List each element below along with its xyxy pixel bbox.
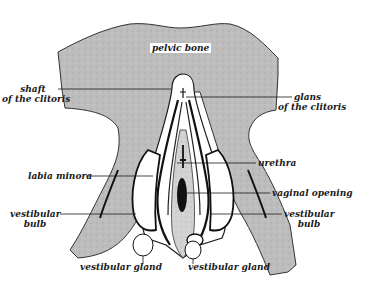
label-shaft-of-clitoris: shaft of the clitoris <box>2 84 64 104</box>
label-shaft-line1: shaft <box>2 84 64 94</box>
label-vestibular-bulb-right: vestibular bulb <box>284 209 334 229</box>
vestibular-gland-left <box>133 234 153 256</box>
label-pelvic-bone: pelvic bone <box>150 43 211 53</box>
label-glans-line2: of the clitoris <box>278 102 346 112</box>
anatomy-diagram: pelvic bone shaft of the clitoris glans … <box>0 0 374 289</box>
label-urethra: urethra <box>258 158 296 168</box>
label-vestibular-bulb-left: vestibular bulb <box>10 209 60 229</box>
label-shaft-line2: of the clitoris <box>2 94 64 104</box>
label-glans-line1: glans <box>278 92 346 102</box>
label-vestibular-gland-right: vestibular gland <box>188 262 270 272</box>
label-labia-minora: labia minora <box>28 171 92 181</box>
vaginal-opening-shape <box>177 178 187 212</box>
label-glans-of-clitoris: glans of the clitoris <box>278 92 346 112</box>
label-vestibular-gland-left: vestibular gland <box>80 262 162 272</box>
vestibular-gland-right <box>185 241 201 259</box>
label-vestibular-bulb-right-line1: vestibular <box>284 209 334 219</box>
label-vestibular-bulb-right-line2: bulb <box>284 219 334 229</box>
label-vestibular-bulb-left-line1: vestibular <box>10 209 60 219</box>
label-vestibular-bulb-left-line2: bulb <box>10 219 60 229</box>
label-vaginal-opening: vaginal opening <box>272 188 353 198</box>
